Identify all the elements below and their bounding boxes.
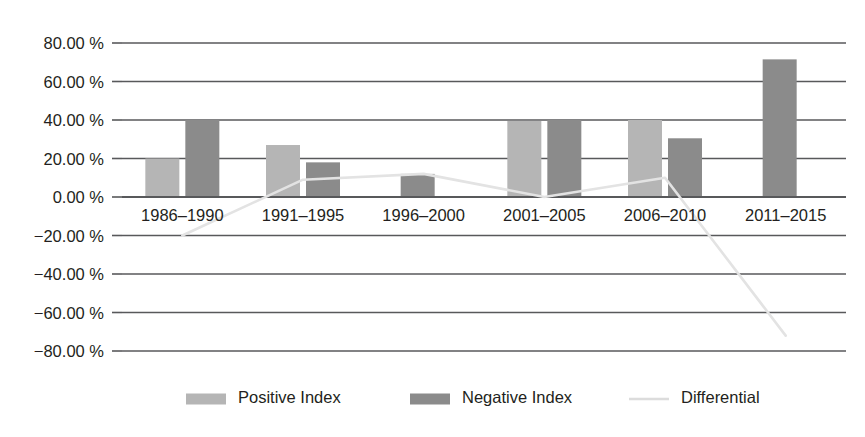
ytick-label: 20.00 % [43, 150, 104, 168]
legend-group: Positive IndexNegative IndexDifferential [186, 388, 760, 406]
bar-negative-index [763, 59, 797, 197]
bar-negative-index [547, 120, 581, 197]
ytick-label: −60.00 % [34, 304, 105, 322]
legend-label-3: Differential [681, 388, 760, 406]
bar-positive-index [507, 121, 541, 197]
differential-line-group [182, 174, 785, 336]
differential-line [182, 174, 785, 336]
ytick-label: 60.00 % [43, 73, 104, 91]
bar-positive-index [145, 159, 179, 198]
bars-group [145, 59, 796, 197]
ytick-label: 0.00 % [53, 188, 105, 206]
ytick-label: −80.00 % [34, 342, 105, 360]
xtick-labels-group: 1986–19901991–19951996–20002001–20052006… [141, 206, 826, 224]
ytick-labels-group: 80.00 %60.00 %40.00 %20.00 %0.00 %−20.00… [34, 34, 105, 360]
legend-swatch-negative-index [410, 394, 450, 405]
chart-svg: 80.00 %60.00 %40.00 %20.00 %0.00 %−20.00… [0, 0, 865, 437]
xtick-label-1: 1986–1990 [141, 206, 224, 224]
ytick-label: −20.00 % [34, 227, 105, 245]
bar-positive-index [628, 120, 662, 197]
xtick-label-3: 1996–2000 [382, 206, 465, 224]
bar-negative-index [401, 174, 435, 197]
ytick-marks-group [112, 43, 122, 351]
legend-label-2: Negative Index [462, 388, 573, 406]
ytick-label: 40.00 % [43, 111, 104, 129]
legend-swatch-positive-index [186, 394, 226, 405]
xtick-label-2: 1991–1995 [262, 206, 345, 224]
chart-container: 80.00 %60.00 %40.00 %20.00 %0.00 %−20.00… [0, 0, 865, 437]
ytick-label: −40.00 % [34, 265, 105, 283]
xtick-label-4: 2001–2005 [503, 206, 586, 224]
bar-negative-index [185, 120, 219, 197]
legend-label-1: Positive Index [238, 388, 341, 406]
ytick-label: 80.00 % [43, 34, 104, 52]
xtick-label-5: 2006–2010 [624, 206, 707, 224]
xtick-label-6: 2011–2015 [745, 206, 826, 224]
